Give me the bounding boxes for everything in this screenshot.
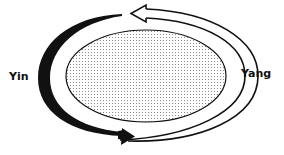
center-ellipse xyxy=(66,30,226,122)
yang-label: Yang xyxy=(241,68,271,79)
yin-label: Yin xyxy=(9,71,29,82)
